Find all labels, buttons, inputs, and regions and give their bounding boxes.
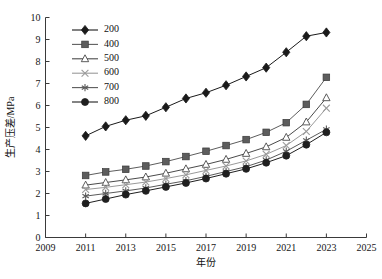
x-axis-ticks: 200920112013201520172019202120232025	[36, 234, 377, 253]
marker-square	[243, 136, 250, 143]
y-tick-label: 8	[36, 56, 41, 67]
y-axis-title: 生产压差/MPa	[4, 96, 16, 158]
marker-diamond	[122, 116, 129, 125]
y-tick-label: 3	[36, 166, 41, 177]
x-tick-label: 2011	[76, 242, 96, 253]
x-tick-label: 2021	[276, 242, 296, 253]
x-tick-label: 2017	[196, 242, 216, 253]
marker-diamond	[222, 81, 229, 90]
marker-diamond	[283, 48, 290, 57]
marker-square	[183, 153, 190, 160]
marker-diamond	[323, 28, 330, 37]
x-tick-label: 2013	[116, 242, 136, 253]
legend-label-500: 500	[104, 52, 119, 63]
marker-circle	[323, 129, 330, 136]
marker-circle	[203, 175, 210, 182]
marker-square	[163, 158, 170, 165]
marker-circle	[223, 170, 230, 177]
marker-triangle	[263, 143, 270, 150]
x-axis-title: 年份	[196, 256, 216, 268]
x-tick-label: 2015	[156, 242, 176, 253]
x-tick-label: 2025	[357, 242, 377, 253]
marker-circle	[263, 159, 270, 166]
y-tick-label: 10	[31, 12, 41, 23]
x-tick-label: 2009	[36, 242, 56, 253]
y-tick-label: 9	[36, 34, 41, 45]
marker-square	[283, 119, 290, 126]
marker-diamond	[303, 32, 310, 41]
marker-circle	[122, 191, 129, 198]
marker-circle	[142, 187, 149, 194]
marker-diamond	[263, 63, 270, 72]
marker-square	[143, 163, 150, 170]
marker-diamond	[82, 131, 89, 140]
marker-circle	[102, 196, 109, 203]
marker-square	[82, 41, 89, 48]
marker-circle	[162, 183, 169, 190]
marker-circle	[243, 165, 250, 172]
marker-diamond	[81, 25, 88, 34]
marker-square	[122, 166, 129, 173]
x-tick-label: 2023	[316, 242, 336, 253]
marker-diamond	[102, 122, 109, 131]
x-tick-label: 2019	[236, 242, 256, 253]
marker-circle	[283, 152, 290, 159]
marker-cross	[323, 105, 330, 112]
legend: 200400500600700800	[72, 23, 119, 106]
marker-triangle	[283, 133, 290, 140]
y-tick-label: 5	[36, 122, 41, 133]
legend-label-800: 800	[104, 95, 119, 106]
marker-square	[82, 172, 89, 179]
legend-label-600: 600	[104, 66, 119, 77]
marker-circle	[182, 179, 189, 186]
marker-circle	[82, 200, 89, 207]
y-axis-ticks: 012345678910	[31, 12, 50, 243]
marker-square	[102, 169, 109, 176]
legend-label-700: 700	[104, 81, 119, 92]
marker-square	[303, 101, 310, 108]
marker-diamond	[162, 103, 169, 112]
legend-item-500[interactable]: 500	[72, 52, 119, 63]
series-line-500	[86, 98, 327, 185]
legend-item-700[interactable]: 700	[72, 81, 119, 92]
marker-circle	[303, 141, 310, 148]
y-tick-label: 4	[36, 144, 41, 155]
marker-diamond	[202, 88, 209, 97]
marker-square	[263, 129, 270, 136]
y-tick-label: 2	[36, 188, 41, 199]
legend-item-600[interactable]: 600	[72, 66, 119, 77]
marker-diamond	[142, 111, 149, 120]
legend-label-400: 400	[104, 38, 119, 49]
line-chart: 0123456789102009201120132015201720192021…	[0, 0, 382, 279]
legend-item-400[interactable]: 400	[72, 38, 119, 49]
y-tick-label: 1	[36, 210, 41, 221]
y-tick-label: 6	[36, 100, 41, 111]
y-tick-label: 7	[36, 78, 41, 89]
marker-diamond	[243, 72, 250, 81]
marker-square	[323, 74, 330, 81]
legend-item-200[interactable]: 200	[72, 23, 119, 34]
marker-triangle	[81, 55, 88, 62]
axes-group	[46, 18, 367, 238]
legend-item-800[interactable]: 800	[72, 95, 119, 106]
marker-circle	[82, 99, 89, 106]
marker-square	[203, 148, 210, 155]
marker-cross	[303, 128, 310, 135]
chart-container: 0123456789102009201120132015201720192021…	[0, 0, 382, 279]
marker-diamond	[182, 94, 189, 103]
marker-triangle	[323, 94, 330, 101]
legend-label-200: 200	[104, 23, 119, 34]
marker-square	[223, 142, 230, 149]
series-200	[82, 28, 330, 141]
y-axis-title-group: 生产压差/MPa	[4, 96, 16, 158]
